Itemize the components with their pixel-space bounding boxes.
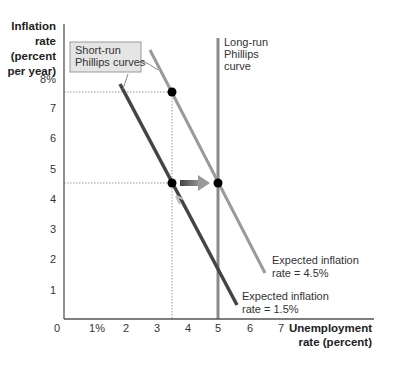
srpc-high-label: Expected inflation rate = 4.5%	[272, 254, 359, 279]
svg-text:5: 5	[50, 163, 56, 175]
svg-text:6: 6	[247, 322, 253, 334]
svg-text:Short-run: Short-run	[75, 44, 121, 56]
svg-text:rate = 1.5%: rate = 1.5%	[242, 303, 299, 315]
svg-text:rate: rate	[35, 35, 56, 47]
y-axis-ticks: 8% 7 6 5 4 3 2 1	[40, 73, 56, 296]
svg-text:5: 5	[215, 322, 221, 334]
y-axis-label: Inflation rate (percent per year)	[7, 20, 56, 77]
svg-text:4: 4	[50, 193, 56, 205]
svg-text:1%: 1%	[89, 322, 105, 334]
svg-text:Long-run: Long-run	[224, 36, 268, 48]
svg-text:Phillips curves: Phillips curves	[75, 56, 146, 68]
svg-text:0: 0	[54, 322, 60, 334]
svg-text:2: 2	[123, 322, 129, 334]
svg-text:(percent: (percent	[11, 50, 57, 62]
lrpc-label: Long-run Phillips curve	[224, 36, 268, 72]
svg-text:Inflation: Inflation	[11, 20, 56, 32]
shift-arrow	[180, 175, 210, 191]
svg-text:Unemployment: Unemployment	[289, 322, 372, 334]
svg-text:curve: curve	[224, 60, 251, 72]
svg-text:7: 7	[50, 102, 56, 114]
guide-lines	[64, 92, 172, 319]
svg-text:6: 6	[50, 132, 56, 144]
svg-text:Expected inflation: Expected inflation	[272, 254, 359, 266]
x-axis-label: Unemployment rate (percent)	[289, 322, 372, 348]
srpc-callout: Short-run Phillips curves	[70, 42, 158, 89]
svg-text:2: 2	[50, 253, 56, 265]
x-axis-ticks: 0 1% 2 3 4 5 6 7	[54, 322, 284, 334]
svg-text:Phillips: Phillips	[224, 48, 259, 60]
svg-text:7: 7	[278, 322, 284, 334]
svg-text:4: 4	[185, 322, 191, 334]
svg-text:rate (percent): rate (percent)	[299, 336, 373, 348]
svg-text:Expected inflation: Expected inflation	[242, 290, 329, 302]
svg-text:8%: 8%	[40, 73, 56, 85]
svg-text:1: 1	[50, 284, 56, 296]
srpc-low-label: Expected inflation rate = 1.5%	[242, 290, 329, 315]
srpc-expected-4-5	[150, 50, 265, 273]
svg-text:3: 3	[154, 322, 160, 334]
svg-text:3: 3	[50, 223, 56, 235]
svg-text:rate = 4.5%: rate = 4.5%	[272, 267, 329, 279]
phillips-curve-chart: Inflation rate (percent per year) 8% 7 6…	[0, 0, 394, 367]
